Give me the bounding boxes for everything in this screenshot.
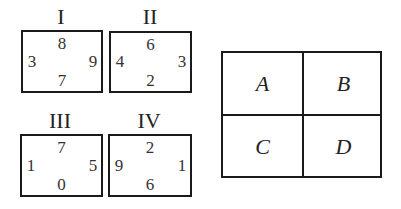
panel-III-bottom-number: 0 [55,176,69,193]
grid-cell-b: B [304,53,383,114]
abcd-grid: A B C D [221,51,382,178]
panel-I: 8 3 9 7 [21,30,103,93]
panel-II-top-number: 6 [144,36,158,53]
grid-cell-d: D [304,116,383,177]
panel-III-right-number: 5 [86,157,100,174]
panel-label-I: I [31,6,91,28]
panel-II: 6 4 3 2 [109,31,192,93]
panel-IV: 2 9 1 6 [108,134,192,197]
panel-label-II: II [120,6,180,28]
panel-I-top-number: 8 [55,35,69,52]
panel-label-IV: IV [119,110,179,132]
panel-label-III: III [30,110,90,132]
grid-cell-a: A [223,53,302,114]
panel-II-right-number: 3 [175,53,189,70]
panel-I-left-number: 3 [25,53,39,70]
panel-I-right-number: 9 [86,53,100,70]
panel-IV-right-number: 1 [175,157,189,174]
grid-cell-c: C [223,116,302,177]
panel-IV-left-number: 9 [112,157,126,174]
panel-III-left-number: 1 [24,157,38,174]
panel-I-bottom-number: 7 [55,72,69,89]
panel-III-top-number: 7 [55,139,69,156]
panel-IV-top-number: 2 [143,139,157,156]
panel-III: 7 1 5 0 [20,134,103,197]
panel-II-bottom-number: 2 [144,72,158,89]
panel-IV-bottom-number: 6 [143,176,157,193]
panel-II-left-number: 4 [113,53,127,70]
